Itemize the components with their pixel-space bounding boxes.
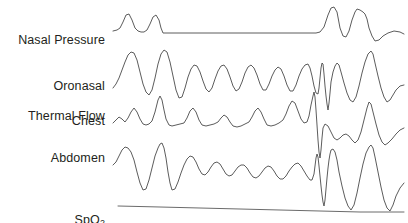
trace-layer bbox=[0, 0, 408, 223]
trace-chest bbox=[113, 92, 404, 158]
trace-spo2 bbox=[118, 206, 404, 212]
trace-abdomen bbox=[113, 143, 404, 211]
polysomnography-figure: Nasal Pressure Oronasal Thermal Flow Che… bbox=[0, 0, 408, 223]
trace-nasal-pressure bbox=[113, 7, 404, 41]
trace-oronasal-thermal-flow bbox=[113, 50, 404, 110]
